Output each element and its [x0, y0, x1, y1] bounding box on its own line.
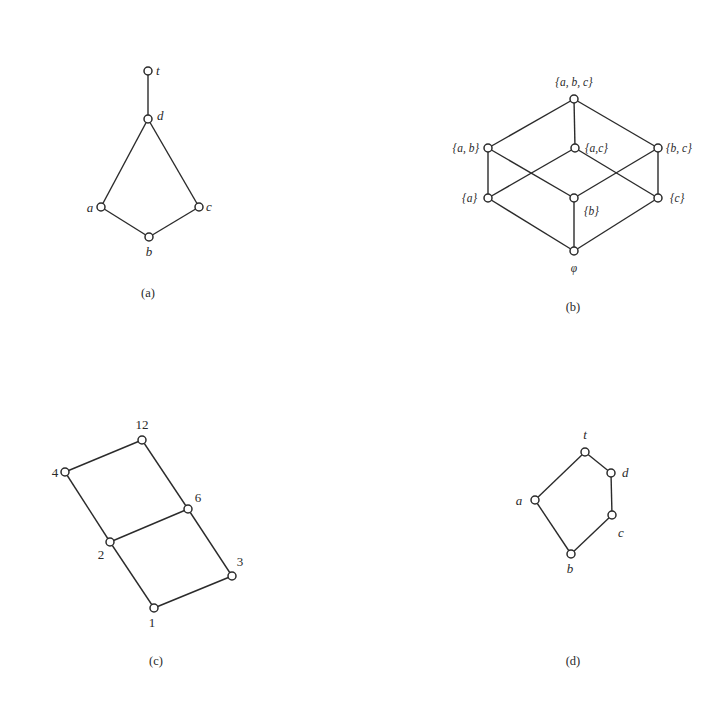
- edge-c-b: [149, 207, 199, 237]
- node-label-4: 4: [52, 465, 59, 480]
- node-a: [97, 203, 105, 211]
- node-a: [484, 194, 492, 202]
- node-3: [228, 572, 236, 580]
- edge-12-6: [142, 440, 188, 509]
- edge-2-1: [110, 542, 154, 608]
- node-label-abc: {a, b, c}: [555, 76, 593, 89]
- panel-caption: (b): [566, 300, 581, 314]
- node-t: [144, 67, 152, 75]
- node-label-d: d: [622, 465, 629, 480]
- node-b: [570, 194, 578, 202]
- edge-a-b: [101, 207, 149, 237]
- node-label-c: c: [206, 199, 212, 214]
- node-label-bc: {b, c}: [666, 142, 692, 155]
- edges: [101, 71, 199, 237]
- node-6: [184, 505, 192, 513]
- edge-d-a: [101, 119, 148, 207]
- node-a: [531, 496, 539, 504]
- node-label-a: {a}: [462, 192, 477, 204]
- edge-a-empty: [488, 198, 574, 251]
- node-label-c: {c}: [670, 192, 685, 204]
- node-12: [138, 436, 146, 444]
- edge-12-4: [65, 440, 142, 472]
- node-label-6: 6: [195, 490, 202, 505]
- node-label-ac: {a,c}: [585, 142, 608, 155]
- edge-c-b: [571, 515, 612, 554]
- node-2: [106, 538, 114, 546]
- node-b: [567, 550, 575, 558]
- node-label-12: 12: [136, 417, 149, 432]
- node-label-a: a: [516, 493, 523, 508]
- panel-caption: (c): [149, 654, 163, 668]
- lattice-diagrams-figure: tdacb(a) {a, b, c}{a, b}{a,c}{b, c}{a}{b…: [0, 0, 728, 714]
- node-ac: [571, 144, 579, 152]
- panel-caption: (d): [566, 654, 581, 668]
- node-label-b: {b}: [584, 205, 599, 217]
- node-d: [144, 115, 152, 123]
- node-ab: [484, 144, 492, 152]
- node-label-b: b: [146, 244, 153, 259]
- node-abc: [570, 95, 578, 103]
- node-4: [61, 468, 69, 476]
- edge-6-3: [188, 509, 232, 576]
- node-d: [607, 469, 615, 477]
- edge-abc-bc: [574, 99, 658, 148]
- node-label-t: t: [583, 427, 587, 442]
- node-c: [608, 511, 616, 519]
- edge-4-2: [65, 472, 110, 542]
- panel-c-divisor-lattice-12: 1246231(c): [52, 417, 244, 668]
- node-c: [654, 194, 662, 202]
- node-label-t: t: [156, 63, 160, 78]
- node-label-ab: {a, b}: [453, 142, 480, 155]
- node-label-2: 2: [98, 547, 105, 562]
- edge-d-c: [611, 473, 612, 515]
- node-label-d: d: [157, 108, 164, 123]
- node-label-a: a: [87, 200, 94, 215]
- edge-a-b: [535, 500, 571, 554]
- node-label-b: b: [567, 561, 574, 576]
- edge-d-c: [148, 119, 199, 207]
- node-1: [150, 604, 158, 612]
- panel-d-pentagon-lattice: tdacb(d): [516, 427, 629, 668]
- edge-3-1: [154, 576, 232, 608]
- node-label-3: 3: [237, 554, 244, 569]
- node-bc: [654, 144, 662, 152]
- edge-abc-ac: [574, 99, 575, 148]
- node-t: [581, 448, 589, 456]
- node-label-1: 1: [149, 615, 156, 630]
- edges: [65, 440, 232, 608]
- node-empty: [570, 247, 578, 255]
- edge-t-a: [535, 452, 585, 500]
- panel-a-lattice-pentagon-with-top: tdacb(a): [87, 63, 212, 300]
- node-b: [145, 233, 153, 241]
- edges: [535, 452, 612, 554]
- edge-6-2: [110, 509, 188, 542]
- edge-t-d: [585, 452, 611, 473]
- edge-abc-ab: [488, 99, 574, 148]
- node-label-c: c: [618, 525, 624, 540]
- edges: [488, 99, 658, 251]
- panel-caption: (a): [141, 286, 155, 300]
- panel-b-powerset-lattice: {a, b, c}{a, b}{a,c}{b, c}{a}{b}{c}φ(b): [453, 76, 693, 314]
- node-c: [195, 203, 203, 211]
- node-label-empty: φ: [571, 262, 578, 275]
